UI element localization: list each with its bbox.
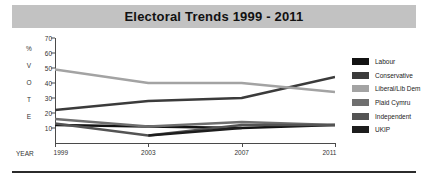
- legend-item[interactable]: Independent: [352, 113, 421, 120]
- x-tick-label: 2007: [234, 149, 248, 156]
- y-axis-label-char-3: T: [27, 97, 31, 104]
- bottom-divider: [12, 171, 416, 173]
- x-tick-label: 2003: [141, 149, 155, 156]
- legend-item[interactable]: Plaid Cymru: [352, 99, 421, 106]
- y-axis-label-char-1: V: [27, 63, 31, 70]
- x-tick-label: 1999: [54, 149, 68, 156]
- legend-label: Liberal/Lib Dem: [375, 85, 421, 92]
- y-axis-label-char-4: E: [27, 114, 31, 121]
- series-line: [55, 70, 335, 93]
- x-tick-mark: [55, 143, 56, 147]
- legend-swatch-icon: [352, 99, 369, 106]
- legend-label: Conservative: [375, 72, 413, 79]
- legend-item[interactable]: UKIP: [352, 126, 421, 133]
- x-axis-label: YEAR: [16, 150, 34, 157]
- x-tick-label: 2011: [322, 149, 336, 156]
- y-axis-label: % V O T E: [22, 46, 36, 121]
- y-axis-label-char-0: %: [26, 46, 32, 53]
- legend-label: Labour: [375, 58, 395, 65]
- page-title: Electoral Trends 1999 - 2011: [124, 9, 303, 24]
- chart-title-band: Electoral Trends 1999 - 2011: [12, 5, 416, 28]
- y-tick-label: 20: [45, 110, 52, 117]
- legend: LabourConservativeLiberal/Lib DemPlaid C…: [352, 58, 421, 133]
- legend-swatch-icon: [352, 85, 369, 92]
- y-tick-label: 50: [45, 65, 52, 72]
- y-tick-label: 10: [45, 125, 52, 132]
- legend-swatch-icon: [352, 113, 369, 120]
- x-tick-mark: [335, 143, 336, 147]
- legend-label: Plaid Cymru: [375, 99, 410, 106]
- legend-swatch-icon: [352, 72, 369, 79]
- y-tick-label: 60: [45, 50, 52, 57]
- legend-swatch-icon: [352, 126, 369, 133]
- legend-item[interactable]: Conservative: [352, 72, 421, 79]
- plot-area: 70605040302010 1999200320072011: [55, 38, 335, 143]
- y-tick-label: 30: [45, 95, 52, 102]
- legend-item[interactable]: Liberal/Lib Dem: [352, 85, 421, 92]
- x-axis-line: [55, 143, 335, 144]
- y-axis-label-char-2: O: [26, 80, 31, 87]
- x-tick-mark: [148, 143, 149, 147]
- series-layer: [55, 38, 335, 143]
- legend-item[interactable]: Labour: [352, 58, 421, 65]
- legend-label: UKIP: [375, 126, 390, 133]
- y-tick-label: 70: [45, 35, 52, 42]
- x-tick-mark: [242, 143, 243, 147]
- y-tick-label: 40: [45, 80, 52, 87]
- electoral-trends-chart: Electoral Trends 1999 - 2011 % V O T E Y…: [0, 0, 428, 177]
- legend-label: Independent: [375, 113, 411, 120]
- legend-swatch-icon: [352, 58, 369, 65]
